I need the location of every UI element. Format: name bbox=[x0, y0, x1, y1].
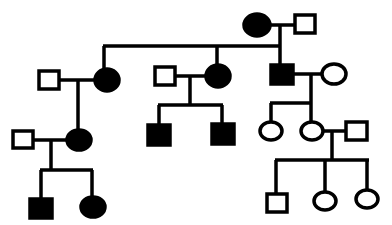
affected-female-IV-2 bbox=[81, 197, 105, 217]
unaffected-male-III-1 bbox=[13, 131, 33, 148]
unaffected-female-IV-4 bbox=[314, 192, 336, 210]
unaffected-female-II-6 bbox=[322, 64, 346, 84]
affected-female-III-2 bbox=[67, 130, 91, 150]
unaffected-female-III-6 bbox=[301, 122, 323, 140]
connector-lines bbox=[34, 25, 369, 200]
affected-male-IV-1 bbox=[30, 199, 52, 218]
unaffected-male-IV-3 bbox=[267, 194, 287, 212]
unaffected-male-II-1 bbox=[39, 71, 59, 89]
unaffected-female-III-5 bbox=[260, 122, 282, 140]
unaffected-male-III-7 bbox=[346, 122, 367, 140]
unaffected-female-IV-5 bbox=[356, 190, 378, 208]
affected-female-I-1 bbox=[244, 14, 270, 36]
affected-male-III-4 bbox=[212, 124, 234, 144]
pedigree-svg bbox=[0, 0, 392, 225]
pedigree-chart bbox=[0, 0, 392, 225]
affected-female-II-4 bbox=[206, 65, 230, 87]
affected-male-II-5 bbox=[271, 65, 293, 84]
affected-male-III-3 bbox=[148, 125, 170, 145]
unaffected-male-II-3 bbox=[155, 67, 175, 85]
affected-female-II-2 bbox=[95, 69, 119, 91]
unaffected-male-I-2 bbox=[295, 15, 315, 33]
